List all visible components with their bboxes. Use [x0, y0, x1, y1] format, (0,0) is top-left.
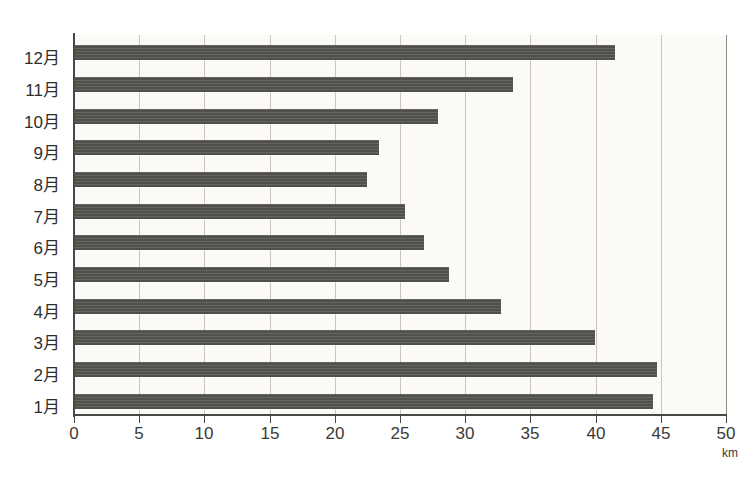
x-axis-tick: [335, 416, 336, 423]
y-axis-category-label: 1月: [34, 393, 60, 418]
gridline: [335, 35, 336, 415]
gridline: [530, 35, 531, 415]
x-axis-tick: [74, 416, 75, 423]
x-axis-tick-label: 35: [521, 424, 540, 444]
y-axis-category-label: 7月: [34, 203, 60, 228]
x-axis-tick: [204, 416, 205, 423]
x-axis-tick-label: 25: [391, 424, 410, 444]
bar: [75, 362, 657, 377]
x-axis-tick: [465, 416, 466, 423]
x-axis-tick-label: 45: [652, 424, 671, 444]
y-axis-category-label: 5月: [34, 266, 60, 291]
gridline: [204, 35, 205, 415]
x-axis-tick-label: 40: [587, 424, 606, 444]
bar: [75, 330, 595, 345]
bar: [75, 77, 513, 92]
bar: [75, 109, 438, 124]
x-axis-tick-label: 30: [456, 424, 475, 444]
x-axis-tick-label: 50: [717, 424, 736, 444]
x-axis-tick-label: 20: [326, 424, 345, 444]
y-axis-category-label: 9月: [34, 139, 60, 164]
x-axis-tick: [139, 416, 140, 423]
bar: [75, 394, 653, 409]
y-axis-category-label: 8月: [34, 171, 60, 196]
x-axis-tick: [530, 416, 531, 423]
gridline: [465, 35, 466, 415]
y-axis-category-label: 4月: [34, 298, 60, 323]
y-axis-category-label: 10月: [24, 108, 60, 133]
chart-screenshot: 05101520253035404550 12月11月10月9月8月7月6月5月…: [0, 0, 750, 478]
y-axis-category-label: 6月: [34, 234, 60, 259]
bar: [75, 172, 367, 187]
x-axis-tick-label: 0: [69, 424, 78, 444]
bar: [75, 235, 424, 250]
bar: [75, 204, 405, 219]
gridline: [596, 35, 597, 415]
gridline: [726, 35, 727, 415]
x-axis-tick: [270, 416, 271, 423]
x-axis-unit-label: km: [722, 446, 738, 460]
x-axis-tick-label: 10: [195, 424, 214, 444]
x-axis-tick: [400, 416, 401, 423]
x-axis-tick-label: 15: [261, 424, 280, 444]
gridline: [661, 35, 662, 415]
x-axis-tick-label: 5: [134, 424, 143, 444]
gridline: [400, 35, 401, 415]
bar: [75, 267, 449, 282]
y-axis-category-label: 12月: [24, 44, 60, 69]
y-axis-category-label: 11月: [25, 76, 60, 101]
x-axis-tick: [596, 416, 597, 423]
gridline: [270, 35, 271, 415]
y-axis-category-label: 2月: [34, 361, 60, 386]
x-axis-tick: [726, 416, 727, 423]
gridline: [139, 35, 140, 415]
plot-area: [74, 35, 726, 415]
bar: [75, 45, 615, 60]
bar: [75, 299, 501, 314]
bar: [75, 140, 379, 155]
y-axis-category-label: 3月: [34, 329, 60, 354]
y-axis-line: [73, 33, 75, 417]
x-axis-tick: [661, 416, 662, 423]
